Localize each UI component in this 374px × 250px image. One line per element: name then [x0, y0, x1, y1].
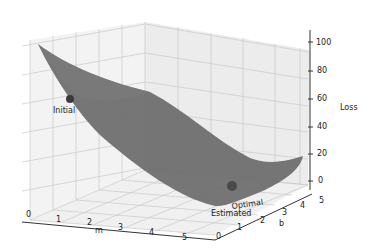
- m-tick-1: 1: [56, 215, 61, 224]
- m-tick-0: 0: [26, 210, 31, 219]
- b-tick-4: 4: [300, 201, 305, 210]
- z-tick-100: 100: [316, 38, 331, 47]
- initial-label: Initial: [53, 106, 75, 115]
- estimated-label: Estimated: [211, 209, 251, 218]
- m-tick-4: 4: [149, 228, 154, 237]
- y-axis-label: b: [279, 219, 284, 228]
- optimal-point-marker: [227, 181, 237, 191]
- z-tick-40: 40: [317, 122, 327, 131]
- b-tick-1: 1: [237, 223, 242, 232]
- z-axis-ticks: 100 80 60 40 20 0: [308, 38, 331, 185]
- z-axis-label: Loss: [340, 103, 358, 112]
- z-tick-20: 20: [317, 149, 327, 158]
- m-tick-2: 2: [87, 218, 92, 227]
- b-tick-2: 2: [260, 216, 265, 225]
- z-tick-0: 0: [318, 176, 323, 185]
- m-tick-3: 3: [118, 223, 123, 232]
- b-tick-0: 0: [216, 232, 221, 241]
- z-tick-80: 80: [317, 66, 327, 75]
- loss-surface-chart: Initial Optimal Estimated 100 80 60 40 2…: [0, 0, 374, 250]
- z-tick-60: 60: [317, 94, 327, 103]
- initial-point-marker: [66, 95, 74, 103]
- m-tick-5: 5: [182, 233, 187, 242]
- b-tick-5: 5: [319, 196, 324, 205]
- x-axis-label: m: [95, 226, 103, 235]
- b-tick-3: 3: [282, 208, 287, 217]
